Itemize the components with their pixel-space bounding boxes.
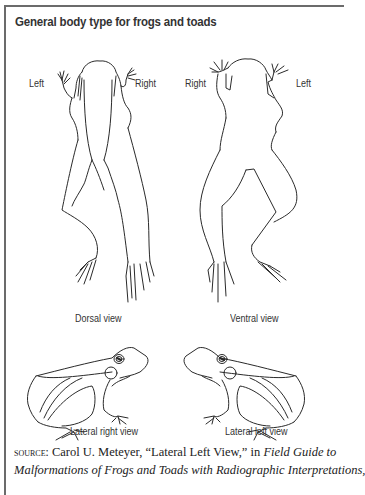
source-citation: source: Carol U. Meteyer, “Lateral Left … xyxy=(14,443,334,479)
source-line-1: source: Carol U. Meteyer, “Lateral Left … xyxy=(14,443,334,461)
source-book-title-part2: Malformations of Frogs and Toads with Ra… xyxy=(14,463,365,477)
caption-lateral-left-view: Lateral left view xyxy=(225,426,288,437)
source-label: source: xyxy=(14,446,49,458)
ventral-frog-drawing xyxy=(200,59,297,302)
source-line-2: Malformations of Frogs and Toads with Ra… xyxy=(14,461,334,479)
caption-dorsal-view: Dorsal view xyxy=(75,313,122,324)
source-book-title-part1: Field Guide to xyxy=(263,445,336,459)
caption-lateral-right-view: Lateral right view xyxy=(70,426,138,437)
source-author-title: Carol U. Meteyer, “Lateral Left View,” i… xyxy=(49,445,264,459)
caption-ventral-view: Ventral view xyxy=(230,313,279,324)
dorsal-frog-drawing xyxy=(58,61,154,302)
